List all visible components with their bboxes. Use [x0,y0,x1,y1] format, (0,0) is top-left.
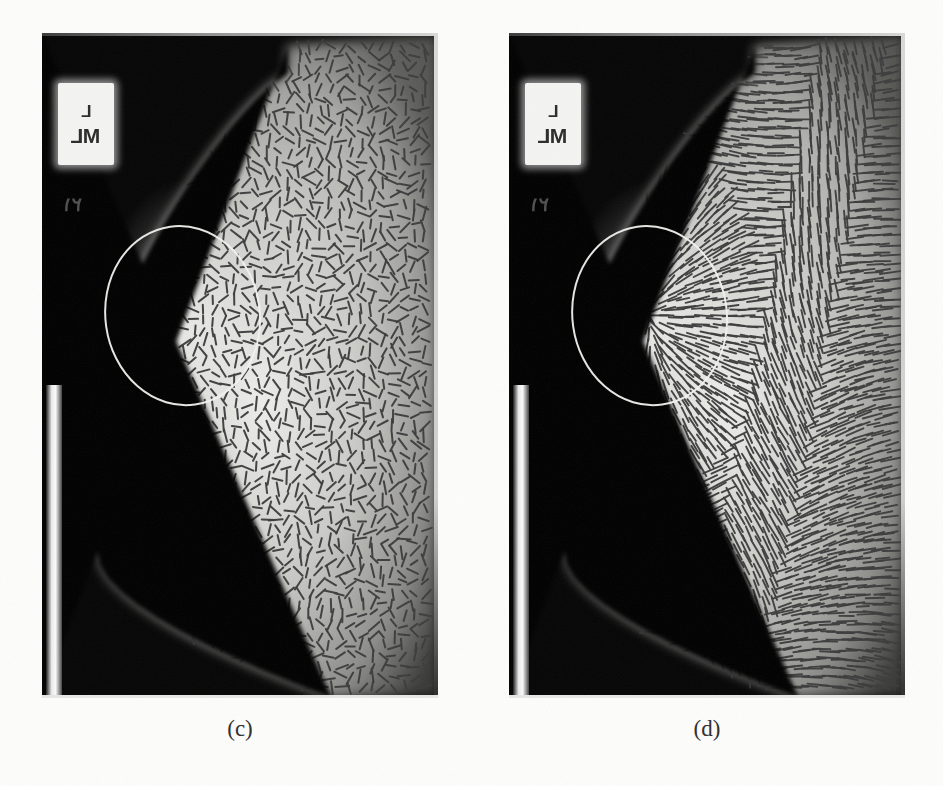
view-marker-label-c: L ML [58,83,114,165]
film-edge-strip-c [46,385,62,698]
scan-edge-top-d [509,33,905,36]
mammogram-panel-d[interactable]: L ML ٢١ [509,33,905,698]
figure-container: L ML ٢١ [0,0,943,786]
film-digits-c: ٢١ [62,193,82,216]
scan-edge-top-c [42,33,438,36]
film-digits-d: ٢١ [529,193,549,216]
scan-edge-right-d [901,33,905,698]
scan-edge-right-c [434,33,438,698]
panel-caption-c: (c) [42,716,438,742]
view-marker-label-d: L ML [525,83,581,165]
film-edge-strip-d [513,385,529,698]
view-marker-projection-c: ML [71,125,100,146]
view-marker-projection-d: ML [538,125,567,146]
view-marker-side-c: L [81,103,91,120]
panel-caption-d: (d) [509,716,905,742]
scan-edge-bottom-c [42,695,438,698]
scan-edge-bottom-d [509,695,905,698]
view-marker-side-d: L [548,103,558,120]
mammogram-panel-c[interactable]: L ML ٢١ [42,33,438,698]
